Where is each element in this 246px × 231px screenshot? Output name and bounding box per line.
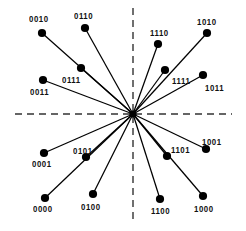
constellation-point bbox=[156, 195, 164, 203]
point-label: 1100 bbox=[151, 206, 170, 216]
constellation-ray bbox=[85, 28, 133, 114]
constellation-ray bbox=[133, 75, 203, 114]
origin-point bbox=[129, 110, 136, 117]
constellation-point bbox=[203, 29, 211, 37]
point-label: 1011 bbox=[205, 83, 224, 93]
constellation-plot bbox=[0, 0, 246, 231]
constellation-ray bbox=[43, 80, 133, 114]
point-label: 0110 bbox=[74, 11, 93, 21]
point-label: 0011 bbox=[30, 87, 49, 97]
constellation-point bbox=[81, 24, 89, 32]
point-label: 0100 bbox=[81, 202, 101, 212]
constellation-point bbox=[38, 29, 46, 37]
constellation-ray bbox=[133, 33, 207, 114]
point-label: 1111 bbox=[172, 76, 190, 86]
point-label: 0010 bbox=[29, 14, 49, 24]
constellation-point bbox=[41, 194, 49, 202]
constellation-ray bbox=[133, 114, 160, 199]
constellation-ray bbox=[133, 70, 165, 114]
point-label: 1101 bbox=[171, 145, 190, 155]
point-label: 1010 bbox=[197, 17, 217, 27]
constellation-point bbox=[161, 66, 169, 74]
point-label: 1110 bbox=[150, 28, 169, 38]
point-label: 0000 bbox=[33, 204, 53, 214]
point-label: 0001 bbox=[32, 159, 52, 169]
axis-group bbox=[15, 8, 232, 222]
constellation-ray bbox=[81, 68, 133, 114]
constellation-ray bbox=[93, 114, 133, 194]
constellation-ray bbox=[133, 114, 206, 149]
constellation-point bbox=[199, 71, 207, 79]
point-label: 0111 bbox=[62, 75, 81, 85]
constellation-diagram: 0010011011101010011111110011101101011101… bbox=[0, 0, 246, 231]
point-label: 1001 bbox=[202, 137, 222, 147]
constellation-point bbox=[163, 152, 171, 160]
constellation-point bbox=[77, 64, 85, 72]
constellation-point bbox=[40, 149, 48, 157]
point-label: 0101 bbox=[73, 146, 93, 156]
constellation-ray bbox=[133, 44, 158, 114]
point-label: 1000 bbox=[194, 204, 214, 214]
constellation-point bbox=[199, 192, 207, 200]
constellation-point bbox=[154, 40, 162, 48]
constellation-point bbox=[39, 76, 47, 84]
constellation-point bbox=[89, 190, 97, 198]
